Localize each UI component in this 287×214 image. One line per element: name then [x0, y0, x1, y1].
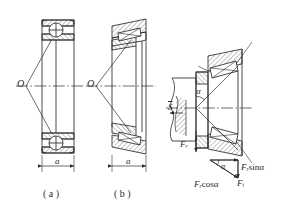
force-component-sin-label: Frsinα — [241, 163, 264, 173]
triangle-angle-label: α — [221, 163, 225, 171]
panel-b-caption: ( b ) — [114, 189, 131, 199]
panel-a-dimension-label: a — [55, 157, 60, 166]
contact-angle-label: α — [196, 87, 201, 96]
force-cos-tail: cosα — [202, 179, 219, 189]
panel-a-caption: ( a ) — [43, 189, 59, 199]
panel-c-bearing-on-shaft — [166, 42, 254, 178]
force-sin-tail: sinα — [249, 162, 264, 172]
figure-canvas: O a ( a ) O a ( b ) α S Fr Frsinα Frcosα… — [0, 0, 287, 214]
force-component-cos-label: Frcosα — [194, 180, 218, 190]
radial-force-label-Fr: Fr — [180, 140, 188, 150]
tangential-force-label-Ft: Ft — [237, 179, 244, 189]
panel-b-bearing — [86, 19, 156, 172]
force-Ft-sub: t — [243, 182, 245, 188]
panel-a-bearing — [16, 20, 84, 172]
axial-force-label-S: S — [168, 103, 173, 112]
force-Fr-sub: r — [186, 143, 188, 149]
panel-b-dimension-label: a — [126, 157, 131, 166]
panel-a-centre-label: O — [17, 79, 24, 89]
panel-b-centre-label: O — [87, 79, 94, 89]
